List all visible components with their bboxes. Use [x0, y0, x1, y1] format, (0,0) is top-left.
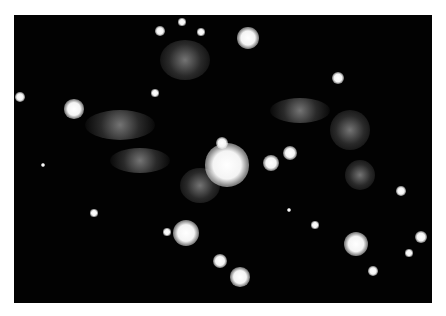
star	[405, 249, 412, 256]
star	[344, 232, 368, 256]
star	[415, 231, 427, 243]
nebula-wisp	[110, 148, 170, 173]
star	[287, 208, 292, 213]
star	[283, 146, 297, 160]
star	[155, 26, 165, 36]
star	[237, 27, 259, 49]
star	[216, 137, 228, 149]
star	[151, 89, 158, 96]
nebula-wisp	[270, 98, 330, 123]
star	[332, 72, 344, 84]
star	[64, 99, 83, 118]
star	[368, 266, 378, 276]
star	[396, 186, 406, 196]
nebula-wisp	[330, 110, 370, 150]
star	[197, 28, 204, 35]
star	[173, 220, 199, 246]
star	[213, 254, 227, 268]
star	[41, 163, 46, 168]
star	[15, 92, 25, 102]
nebula-wisp	[85, 110, 155, 140]
star	[230, 267, 249, 286]
star	[263, 155, 280, 172]
star-field-photo	[14, 15, 432, 303]
star	[205, 143, 248, 186]
star	[163, 228, 170, 235]
star	[311, 221, 318, 228]
star	[178, 18, 185, 25]
nebula-wisp	[345, 160, 375, 190]
nebula-wisp	[160, 40, 210, 80]
star	[90, 209, 97, 216]
